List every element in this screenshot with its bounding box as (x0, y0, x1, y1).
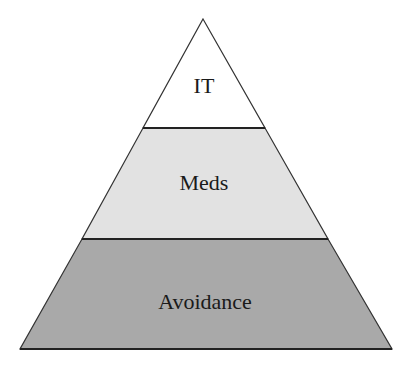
pyramid-diagram: IT Meds Avoidance (0, 0, 403, 365)
label-middle: Meds (180, 170, 229, 195)
label-bottom: Avoidance (158, 289, 252, 314)
label-top: IT (194, 73, 215, 98)
